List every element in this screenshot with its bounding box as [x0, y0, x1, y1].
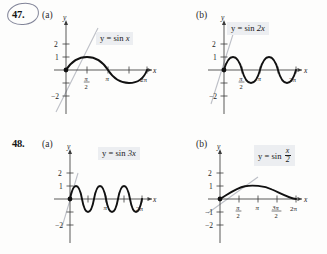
textbook-page: 47. (a) y	[0, 0, 327, 254]
formula-y: y =	[258, 151, 271, 161]
x-axis-arrow	[298, 197, 303, 201]
x-axis-label: x	[303, 195, 308, 204]
graph-48b: y x 2 1 −1 −2 π 2 π 3π 2 2π y = sin x2	[202, 143, 318, 248]
x-tick-label-pi-over-2-num: π	[239, 75, 243, 82]
y-tick-label-2: 2	[54, 40, 58, 49]
formula-sin: sin	[244, 23, 256, 33]
formula-y: y =	[100, 33, 113, 43]
x-tick-label-2pi: 2π	[140, 76, 148, 84]
x-tick-label-pi-over-2-num: π	[85, 75, 89, 82]
x-axis-arrow	[148, 68, 153, 72]
x-axis-arrow	[298, 68, 303, 72]
x-tick-label-pi-over-2-den: 2	[239, 83, 242, 90]
y-axis-label: y	[220, 14, 225, 22]
formula-arg: 2x	[257, 23, 265, 33]
x-tick-label-pi: π	[258, 75, 262, 83]
y-axis-label: y	[62, 14, 67, 22]
tangent-line	[208, 177, 258, 213]
formula-arg-fraction: x2	[285, 147, 291, 164]
x-tick-label-3pi-over-2-num: 3π	[271, 204, 279, 211]
x-tick-label-pi-over-2-den: 2	[236, 212, 239, 219]
y-tick-label-neg2: −2	[209, 92, 217, 101]
x-tick-label-pi-over-2-den: 2	[85, 83, 88, 90]
y-tick-label-1: 1	[209, 182, 213, 191]
x-axis-label: x	[303, 66, 308, 75]
x-tick-label-2pi: 2π	[136, 205, 144, 213]
formula-sin: sin	[115, 148, 127, 158]
origin-point	[218, 197, 223, 202]
formula-label-47b: y = sin 2x	[227, 22, 269, 35]
y-tick-label-2: 2	[208, 169, 212, 178]
y-tick-label-neg2: −2	[51, 92, 59, 101]
graph-47b: y x 2 1 −2 π 2 π 2π y = sin 2x	[202, 14, 314, 119]
x-axis-arrow	[148, 197, 153, 201]
formula-y: y =	[231, 23, 244, 33]
origin-point	[68, 197, 73, 202]
formula-label-48a: y = sin 3x	[98, 147, 140, 160]
x-tick-label-pi: π	[104, 204, 108, 212]
y-tick-label-neg1: −1	[205, 208, 213, 217]
y-tick-label-1: 1	[59, 182, 63, 191]
y-tick-label-neg2: −2	[205, 221, 213, 230]
formula-sin: sin	[271, 151, 283, 161]
formula-label-47a: y = sin x	[96, 32, 133, 45]
y-tick-label-1: 1	[213, 53, 217, 62]
problem-number-48: 48.	[12, 138, 25, 149]
x-axis-label: x	[152, 195, 157, 204]
x-tick-label-pi: π	[256, 204, 260, 212]
x-tick-label-2pi: 2π	[289, 76, 297, 84]
x-tick-label-pi-over-2-num: π	[236, 204, 240, 211]
y-axis-label: y	[216, 143, 221, 151]
y-tick-label-1: 1	[55, 53, 59, 62]
formula-arg: x	[126, 33, 130, 43]
formula-label-48b: y = sin x2	[254, 145, 295, 166]
y-axis-label: y	[66, 143, 71, 151]
y-tick-label-2: 2	[212, 40, 216, 49]
graph-47a: y x 2 1 −2 π 2 π 2π y = sin x	[48, 14, 158, 119]
formula-y: y =	[102, 148, 115, 158]
x-tick-label-pi: π	[106, 75, 110, 83]
graph-47a-svg: y x 2 1 −2 π 2 π 2π	[48, 14, 158, 119]
x-axis-label: x	[152, 66, 157, 75]
formula-arg-denominator: 2	[285, 156, 291, 164]
formula-arg: 3x	[128, 148, 136, 158]
origin-point	[64, 68, 69, 73]
y-tick-label-2: 2	[58, 169, 62, 178]
origin-point	[222, 68, 227, 73]
graph-48a: y x 2 1 −2 π 2π y = sin 3x	[48, 143, 160, 248]
x-tick-label-2pi: 2π	[290, 205, 298, 213]
y-tick-label-neg2: −2	[55, 221, 63, 230]
problem-number-47: 47.	[12, 9, 25, 20]
formula-sin: sin	[113, 33, 125, 43]
x-tick-label-3pi-over-2-den: 2	[274, 212, 277, 219]
